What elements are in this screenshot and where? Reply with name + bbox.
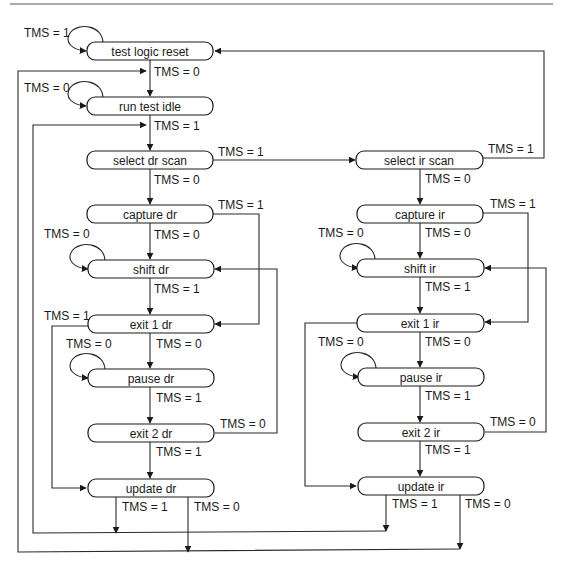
label-e2ir-uir: TMS = 1 <box>425 443 471 457</box>
label-cdr-e1dr: TMS = 1 <box>218 198 264 212</box>
label-sir-cir: TMS = 0 <box>425 172 471 186</box>
state-test-logic-reset: test logic reset <box>87 42 213 60</box>
label-uir-sdr: TMS = 1 <box>392 497 438 511</box>
state-label: run test idle <box>119 100 181 114</box>
label-tlr-self: TMS = 1 <box>24 26 70 40</box>
state-shift-ir: shift ir <box>357 259 484 277</box>
state-label: capture dr <box>123 208 177 222</box>
state-label: pause ir <box>400 371 443 385</box>
state-select-dr-scan: select dr scan <box>87 151 213 169</box>
label-cir-e1ir: TMS = 1 <box>490 197 536 211</box>
label-cir-shir: TMS = 0 <box>425 226 471 240</box>
label-udr-sdr: TMS = 1 <box>122 500 168 514</box>
label-e1dr-udr: TMS = 1 <box>44 309 90 323</box>
state-exit-2-ir: exit 2 ir <box>358 423 484 441</box>
label-pdr-self: TMS = 0 <box>66 337 112 351</box>
state-label: capture ir <box>395 208 445 222</box>
label-rti-self: TMS = 0 <box>24 81 70 95</box>
state-label: pause dr <box>128 372 175 386</box>
state-run-test-idle: run test idle <box>87 97 213 115</box>
state-label: update dr <box>126 482 177 496</box>
state-label: select ir scan <box>384 154 454 168</box>
label-e2dr-udr: TMS = 1 <box>156 445 202 459</box>
label-e1ir-pir: TMS = 0 <box>425 335 471 349</box>
label-cdr-shdr: TMS = 0 <box>154 228 200 242</box>
state-update-dr: update dr <box>88 479 214 497</box>
label-shir-self: TMS = 0 <box>318 226 364 240</box>
state-label: shift dr <box>133 263 169 277</box>
edge-e2ir-shir <box>485 268 546 432</box>
label-rti-sdr: TMS = 1 <box>154 119 200 133</box>
state-select-ir-scan: select ir scan <box>356 151 483 169</box>
label-shir-e1ir: TMS = 1 <box>425 280 471 294</box>
label-pir-e2ir: TMS = 1 <box>425 389 471 403</box>
state-exit-1-ir: exit 1 ir <box>357 314 484 332</box>
state-label: exit 2 ir <box>402 426 441 440</box>
state-label: update ir <box>398 480 445 494</box>
label-pdr-e2dr: TMS = 1 <box>156 391 202 405</box>
label-uir-rti: TMS = 0 <box>465 497 511 511</box>
label-shdr-self: TMS = 0 <box>44 227 90 241</box>
state-label: select dr scan <box>113 154 187 168</box>
label-shdr-e1dr: TMS = 1 <box>154 282 200 296</box>
state-label: exit 1 dr <box>130 318 173 332</box>
state-update-ir: update ir <box>358 477 484 495</box>
state-label: exit 1 ir <box>401 317 440 331</box>
label-pir-self: TMS = 0 <box>318 335 364 349</box>
state-pause-dr: pause dr <box>88 369 214 387</box>
label-sir-tlr: TMS = 1 <box>488 142 534 156</box>
jtag-state-diagram: test logic reset run test idle select dr… <box>0 0 563 566</box>
label-e2ir-shir: TMS = 0 <box>490 415 536 429</box>
label-udr-rti: TMS = 0 <box>194 500 240 514</box>
state-capture-dr: capture dr <box>87 205 213 223</box>
edge-e2dr-shdr <box>215 269 277 433</box>
label-sdr-cdr: TMS = 0 <box>154 173 200 187</box>
state-exit-2-dr: exit 2 dr <box>88 424 214 442</box>
state-exit-1-dr: exit 1 dr <box>88 315 214 333</box>
label-tlr-rti: TMS = 0 <box>154 65 200 79</box>
state-shift-dr: shift dr <box>88 260 214 278</box>
state-capture-ir: capture ir <box>357 205 483 223</box>
label-sdr-sir: TMS = 1 <box>218 145 264 159</box>
state-label: shift ir <box>404 262 436 276</box>
state-pause-ir: pause ir <box>358 368 484 386</box>
label-e2dr-shdr: TMS = 0 <box>220 417 266 431</box>
state-label: test logic reset <box>111 45 189 59</box>
label-e1dr-pdr: TMS = 0 <box>156 337 202 351</box>
state-label: exit 2 dr <box>130 427 173 441</box>
